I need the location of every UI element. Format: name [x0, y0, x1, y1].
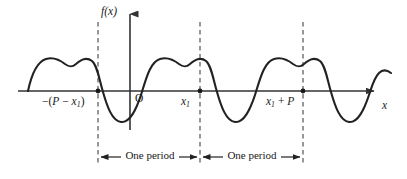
tick-right-plus: +: [275, 95, 287, 107]
tick-label-neg-p-minus-x1: −(P − x1): [42, 96, 84, 109]
tick-left-minus: −: [59, 95, 71, 107]
period-annotation-1: One period: [122, 150, 178, 161]
crossing-dot-right: [301, 89, 306, 94]
function-curve: [28, 58, 391, 122]
tick-right-p: P: [287, 95, 294, 107]
origin-label: O: [135, 93, 143, 105]
period-annotation-2: One period: [224, 150, 280, 161]
tick-label-x1-plus-p: x1 + P: [266, 96, 294, 109]
tick-label-x1: x1: [181, 96, 190, 109]
crossing-dot-left: [96, 89, 101, 94]
crossing-dot-middle: [198, 89, 203, 94]
x-axis-label: x: [382, 100, 387, 112]
y-axis-label: f(x): [101, 6, 117, 18]
tick-left-suffix: ): [81, 95, 85, 107]
tick-middle-subscript: 1: [186, 100, 190, 109]
figure-canvas: [0, 0, 407, 179]
tick-left-prefix: −(: [42, 95, 52, 107]
periodic-function-figure: f(x) O −(P − x1) x1 x1 + P x One period …: [0, 0, 407, 179]
